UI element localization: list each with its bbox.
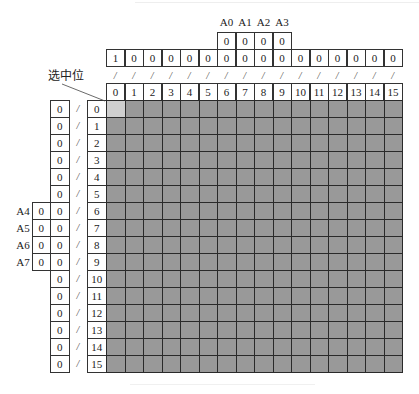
faded-caption	[130, 384, 315, 385]
selected-bit-leader-line	[0, 0, 419, 394]
